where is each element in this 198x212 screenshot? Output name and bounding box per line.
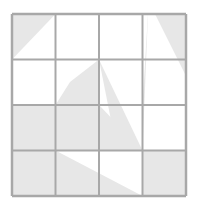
grid-pattern-figure bbox=[0, 0, 198, 212]
row4-col4-square bbox=[143, 151, 187, 197]
figure-canvas bbox=[0, 0, 198, 212]
